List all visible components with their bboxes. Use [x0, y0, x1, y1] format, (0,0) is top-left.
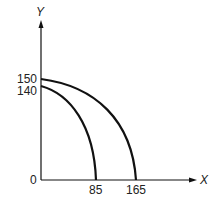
x-axis-label: X	[200, 174, 208, 186]
y-axis-arrow-icon	[39, 20, 44, 28]
outer-frontier-curve	[41, 79, 136, 180]
xtick-165: 165	[126, 184, 146, 196]
ytick-140: 140	[17, 85, 37, 97]
inner-frontier-curve	[41, 86, 96, 180]
xtick-85: 85	[89, 184, 102, 196]
x-axis-arrow-icon	[189, 178, 197, 183]
y-axis-label: Y	[36, 6, 44, 18]
origin-label: 0	[30, 174, 37, 186]
